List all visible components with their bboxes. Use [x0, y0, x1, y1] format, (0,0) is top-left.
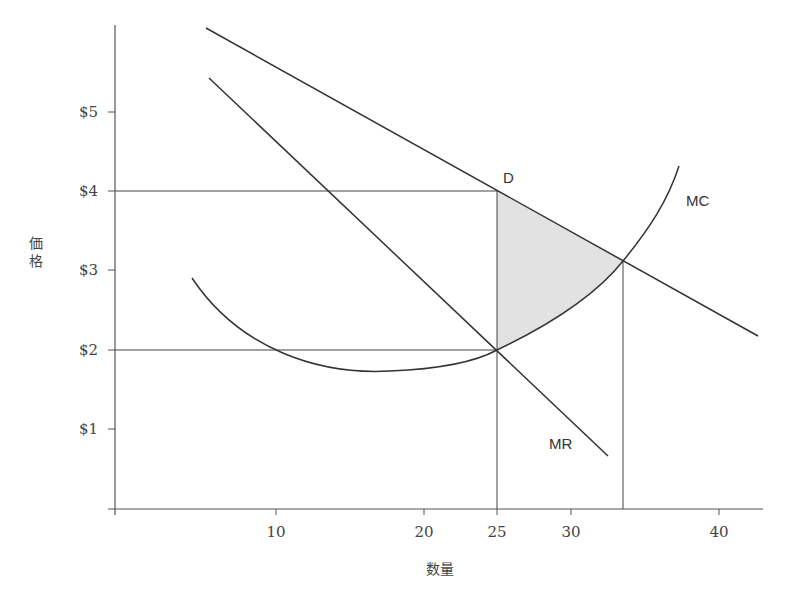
x-axis-title: 数量 [426, 561, 454, 577]
x-tick-label-10: 10 [266, 523, 285, 541]
x-tick-label-30: 30 [561, 523, 580, 541]
label-marginal-cost: MC [686, 192, 709, 209]
y-tick-label-1: $1 [79, 420, 98, 438]
y-tick-label-4: $4 [79, 182, 98, 200]
y-tick-label-5: $5 [79, 103, 98, 121]
y-tick-label-3: $3 [79, 261, 98, 279]
y-axis-title-1: 価 [29, 235, 43, 251]
x-axis-ticks [276, 509, 719, 515]
x-tick-label-20: 20 [414, 523, 433, 541]
shaded-region [497, 191, 623, 350]
label-marginal-revenue: MR [549, 435, 572, 452]
y-axis-ticks [108, 112, 115, 429]
y-tick-label-2: $2 [79, 341, 98, 359]
x-tick-label-25: 25 [487, 523, 506, 541]
x-tick-label-40: 40 [709, 523, 728, 541]
y-axis-title-2: 格 [29, 253, 43, 269]
chart-canvas: $5 $4 $3 $2 $1 10 20 25 30 40 価 格 数量 D M… [0, 0, 786, 600]
label-demand: D [503, 169, 514, 186]
demand-curve [206, 28, 758, 336]
